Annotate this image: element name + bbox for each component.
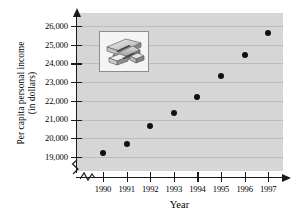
gridline-23000 [77,82,283,83]
x-tick-1990 [103,172,104,182]
y-axis-line [76,16,77,173]
money-bundles-icon [100,32,148,71]
y-tick-23000 [71,82,82,83]
y-tick-24000 [71,63,82,64]
gridline-20000 [77,138,283,139]
gridline-21000 [77,120,283,121]
y-tick-20000 [71,138,82,139]
x-tick-label-1997: 1997 [248,184,288,194]
gridline-19000 [77,157,283,158]
x-tick-1991 [127,172,128,182]
data-point-1993 [171,110,177,116]
y-tick-21000 [71,120,82,121]
gridline-26000 [77,26,283,27]
x-tick-1993 [174,172,175,182]
y-tick-25000 [71,45,82,46]
x-axis-title: Year [76,199,283,210]
y-axis-title: Per capita personal income (in dollars) [16,13,38,173]
x-tick-1996 [245,172,246,182]
x-tick-1994 [197,172,198,182]
x-axis-break-icon [80,170,96,182]
x-tick-1997 [268,172,269,182]
y-tick-19000 [71,157,82,158]
y-tick-22000 [71,101,82,102]
data-point-1995 [218,73,224,79]
data-point-1991 [124,141,130,147]
y-axis-arrow-icon [73,8,81,17]
x-tick-1992 [150,172,151,182]
y-tick-26000 [71,26,82,27]
money-bundles-image [99,31,149,72]
gridline-22000 [77,101,283,102]
income-scatter-chart: 26,000 25,000 24,000 23,000 22,000 21,00… [0,0,301,220]
x-axis-line [76,177,283,178]
x-axis-arrow-icon [282,174,291,182]
data-point-1997 [265,30,271,36]
data-point-1996 [242,52,248,58]
x-tick-1995 [221,172,222,182]
